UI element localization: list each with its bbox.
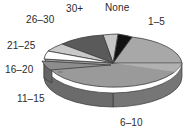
pie-label-21-25: 21–25 [7,40,35,51]
pie-top-face [42,34,182,87]
pie-label-none: None [105,2,129,13]
pie-label-11-15: 11–15 [17,93,45,104]
pie-label-30-plus: 30+ [66,3,83,14]
pie-label-6-10: 6–10 [120,117,143,128]
pie-label-26-30: 26–30 [26,14,54,25]
pie-label-1-5: 1–5 [148,16,165,27]
pie-chart: None 1–5 6–10 11–15 16–20 21–25 26–30 30… [0,0,185,136]
pie-label-16-20: 16–20 [5,64,33,75]
